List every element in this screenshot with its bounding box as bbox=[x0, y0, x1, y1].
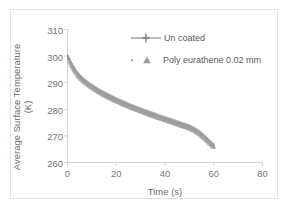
legend-marker-poly-eurathene bbox=[129, 54, 161, 66]
chart-figure: 310 300 290 280 270 260 0 20 40 60 80 Av… bbox=[0, 0, 287, 212]
y-tick-290: 290 bbox=[37, 78, 63, 89]
legend-marker-un-coated bbox=[130, 32, 162, 44]
x-tick-20: 20 bbox=[103, 168, 129, 179]
y-axis-title: Average Surface Temperature (K) bbox=[11, 37, 33, 177]
x-tick-80: 80 bbox=[250, 168, 276, 179]
data-series-group bbox=[65, 54, 217, 150]
legend-label-poly-eurathene: Poly eurathene 0.02 mm bbox=[163, 55, 261, 65]
x-axis-title: Time (s) bbox=[100, 186, 230, 197]
y-axis-title-line1: Average Surface Temperature bbox=[11, 44, 22, 170]
y-tick-260: 260 bbox=[37, 158, 63, 169]
legend-label-un-coated: Un coated bbox=[164, 33, 205, 43]
y-tick-marks bbox=[64, 30, 67, 163]
y-tick-310: 310 bbox=[37, 25, 63, 36]
x-tick-60: 60 bbox=[201, 168, 227, 179]
x-tick-0: 0 bbox=[55, 168, 81, 179]
y-tick-280: 280 bbox=[37, 105, 63, 116]
y-tick-270: 270 bbox=[37, 131, 63, 142]
y-tick-300: 300 bbox=[37, 52, 63, 63]
x-tick-marks bbox=[68, 163, 263, 166]
y-axis-title-line2: (K) bbox=[22, 37, 33, 177]
x-tick-40: 40 bbox=[152, 168, 178, 179]
